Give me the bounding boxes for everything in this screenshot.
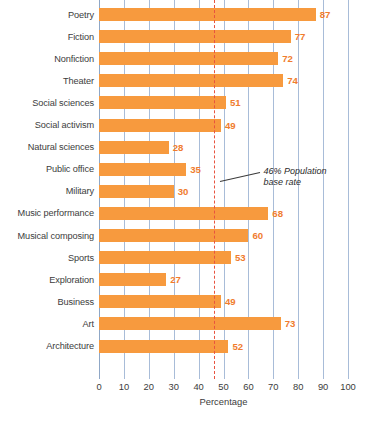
gridline-80 xyxy=(298,0,299,379)
bar-value-label: 28 xyxy=(173,141,184,154)
bar-value-label: 74 xyxy=(287,74,298,87)
bar xyxy=(99,273,166,286)
bar-value-label: 51 xyxy=(230,96,241,109)
x-tick-label: 0 xyxy=(96,381,101,392)
x-axis-title: Percentage xyxy=(99,396,348,407)
category-label: Social sciences xyxy=(0,98,94,108)
bar xyxy=(99,251,231,264)
x-tick-label: 50 xyxy=(218,381,228,392)
x-tick-label: 100 xyxy=(340,381,356,392)
category-label: Fiction xyxy=(0,32,94,42)
annotation-line-2: base rate xyxy=(264,177,327,189)
bar-value-label: 53 xyxy=(235,251,246,264)
plot-area: 87777274514928353068605327497352 46% Pop… xyxy=(99,0,348,379)
bar xyxy=(99,207,268,220)
bar xyxy=(99,119,221,132)
annotation-leader-line xyxy=(219,172,259,182)
category-label: Music performance xyxy=(0,208,94,218)
bar xyxy=(99,340,228,353)
x-tick-label: 80 xyxy=(293,381,303,392)
annotation-line-1: 46% Population xyxy=(264,166,327,178)
bar xyxy=(99,96,226,109)
bar-value-label: 49 xyxy=(225,295,236,308)
bar-value-label: 27 xyxy=(170,273,181,286)
x-axis-ticks: 0102030405060708090100 xyxy=(99,381,348,395)
bar-value-label: 60 xyxy=(252,229,263,242)
category-label: Military xyxy=(0,186,94,196)
base-rate-reference-line xyxy=(214,0,215,379)
category-label: Architecture xyxy=(0,341,94,351)
bar-value-label: 77 xyxy=(295,30,306,43)
category-label: Exploration xyxy=(0,275,94,285)
bar xyxy=(99,141,169,154)
x-tick-label: 20 xyxy=(144,381,154,392)
category-label: Business xyxy=(0,297,94,307)
category-label: Natural sciences xyxy=(0,142,94,152)
category-label: Musical composing xyxy=(0,231,94,241)
bar xyxy=(99,8,316,21)
x-tick-label: 10 xyxy=(119,381,129,392)
bar xyxy=(99,229,248,242)
category-label: Public office xyxy=(0,164,94,174)
bar xyxy=(99,185,174,198)
bar-value-label: 87 xyxy=(320,8,331,21)
x-tick-label: 90 xyxy=(318,381,328,392)
gridline-90 xyxy=(323,0,324,379)
bar xyxy=(99,317,281,330)
bar-value-label: 72 xyxy=(282,52,293,65)
bar xyxy=(99,163,186,176)
category-label: Nonfiction xyxy=(0,54,94,64)
bar xyxy=(99,52,278,65)
category-label: Sports xyxy=(0,253,94,263)
bar xyxy=(99,74,283,87)
bar xyxy=(99,295,221,308)
x-tick-label: 60 xyxy=(243,381,253,392)
gridline-100 xyxy=(348,0,349,379)
bar-value-label: 68 xyxy=(272,207,283,220)
bar-chart: PoetryFictionNonfictionTheaterSocial sci… xyxy=(0,0,366,428)
base-rate-annotation: 46% Population base rate xyxy=(264,166,327,189)
category-label: Art xyxy=(0,319,94,329)
bar-value-label: 73 xyxy=(285,317,296,330)
bar xyxy=(99,30,291,43)
category-label: Poetry xyxy=(0,10,94,20)
bar-value-label: 49 xyxy=(225,119,236,132)
category-label: Theater xyxy=(0,76,94,86)
bar-value-label: 52 xyxy=(232,340,243,353)
bar-value-label: 30 xyxy=(178,185,189,198)
x-tick-label: 40 xyxy=(193,381,203,392)
x-tick-label: 70 xyxy=(268,381,278,392)
category-label: Social activism xyxy=(0,120,94,130)
bar-value-label: 35 xyxy=(190,163,201,176)
x-tick-label: 30 xyxy=(168,381,178,392)
